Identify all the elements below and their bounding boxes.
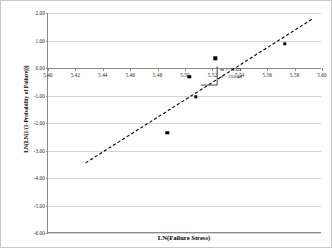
y-axis-title: LN(LN(1/(1-Probability of Failure))) [23, 29, 29, 189]
x-tick-mark [158, 68, 159, 71]
x-tick-label: 5.52 [208, 72, 217, 78]
data-point [213, 57, 216, 60]
x-tick-label: 5.42 [71, 72, 80, 78]
y-tick-label: -2.00 [34, 120, 45, 126]
x-tick-mark [295, 68, 296, 71]
y-gridline [48, 151, 321, 152]
annotation-line-sigma: σ = 252.48 [220, 74, 242, 81]
y-tick-mark [46, 151, 48, 152]
x-tick-mark [322, 68, 323, 71]
data-point [194, 95, 197, 98]
y-tick-label: 2.00 [36, 10, 45, 16]
y-gridline [48, 206, 321, 207]
y-tick-mark [46, 41, 48, 42]
y-tick-mark [46, 123, 48, 124]
x-tick-label: 5.40 [43, 72, 52, 78]
y-tick-label: -3.00 [34, 148, 45, 154]
y-tick-label: -1.00 [34, 93, 45, 99]
y-tick-label: -6.00 [34, 230, 45, 236]
x-axis-title: LN(Failure Stress) [47, 234, 321, 241]
x-tick-label: 5.46 [125, 72, 134, 78]
annotation-box: m = 31.60 σ = 252.48 [220, 67, 242, 81]
y-gridline [48, 41, 321, 42]
chart-frame: 2.001.000.00-1.00-2.00-3.00-4.00-5.00-6.… [0, 0, 332, 248]
y-tick-label: -5.00 [34, 203, 45, 209]
y-gridline [48, 123, 321, 124]
x-tick-mark [185, 68, 186, 71]
y-gridline [48, 96, 321, 97]
y-tick-mark [46, 178, 48, 179]
annotation-line-m: m = 31.60 [220, 67, 242, 74]
y-gridline [48, 178, 321, 179]
data-point [187, 75, 190, 78]
x-tick-label: 5.56 [262, 72, 271, 78]
x-tick-label: 5.48 [153, 72, 162, 78]
y-tick-label: 0.00 [36, 65, 45, 71]
x-tick-label: 5.60 [317, 72, 326, 78]
x-tick-mark [103, 68, 104, 71]
x-tick-mark [48, 68, 49, 71]
x-tick-mark [75, 68, 76, 71]
x-tick-mark [130, 68, 131, 71]
y-tick-mark [46, 206, 48, 207]
plot-area: 2.001.000.00-1.00-2.00-3.00-4.00-5.00-6.… [47, 13, 321, 233]
y-tick-label: -4.00 [34, 175, 45, 181]
data-point [165, 131, 168, 134]
y-tick-mark [46, 13, 48, 14]
x-tick-mark [267, 68, 268, 71]
data-point [283, 42, 286, 45]
y-tick-mark [46, 96, 48, 97]
y-gridline [48, 13, 321, 14]
x-tick-label: 5.58 [290, 72, 299, 78]
y-tick-label: 1.00 [36, 38, 45, 44]
x-tick-mark [212, 68, 213, 71]
x-tick-label: 5.44 [98, 72, 107, 78]
